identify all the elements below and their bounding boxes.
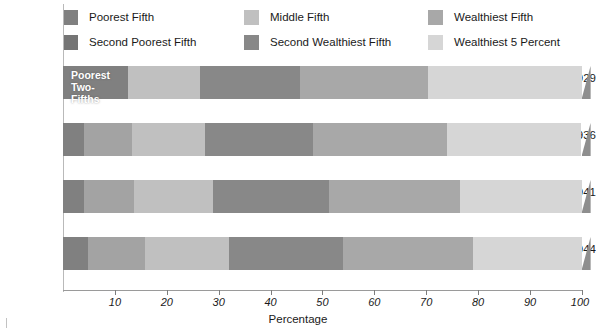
x-tick-label-80: 80 <box>472 296 484 308</box>
segment-poorest-fifth-1944 <box>63 237 88 270</box>
bar-face-1941 <box>63 180 582 213</box>
legend-row-bottom: Second Poorest Fifth Second Wealthiest F… <box>63 31 596 53</box>
x-tick-30 <box>219 290 220 295</box>
segment-middle-fifth-1929 <box>128 66 201 99</box>
bar-face-1944 <box>63 237 582 270</box>
legend-swatch-wealthiest-fifth <box>428 10 443 25</box>
legend-swatch-middle-fifth <box>244 10 259 25</box>
x-tick-label-40: 40 <box>264 296 276 308</box>
x-tick-20 <box>167 290 168 295</box>
segment-middle-fifth-1944 <box>145 237 229 270</box>
segment-wealthiest-fifth-1929 <box>300 66 428 99</box>
legend-swatch-poorest-fifth <box>63 10 78 25</box>
x-tick-100 <box>582 290 583 295</box>
legend-item-poorest-fifth: Poorest Fifth <box>63 6 154 28</box>
legend-label-wealthiest-fifth: Wealthiest Fifth <box>454 11 533 23</box>
legend-label-middle-fifth: Middle Fifth <box>270 11 329 23</box>
x-axis-title: Percentage <box>0 313 596 325</box>
segment-second-wealthiest-fifth-1929 <box>200 66 300 99</box>
x-tick-90 <box>530 290 531 295</box>
legend-label-poorest-fifth: Poorest Fifth <box>89 11 154 23</box>
x-tick-label-20: 20 <box>161 296 173 308</box>
segment-second-poorest-fifth-1944 <box>88 237 145 270</box>
legend-swatch-wealthiest-5-percent <box>428 35 443 50</box>
segment-wealthiest-5-percent-1935-1936 <box>447 123 582 156</box>
x-tick-label-100: 100 <box>571 296 589 308</box>
segment-middle-fifth-1941 <box>134 180 213 213</box>
x-tick-70 <box>426 290 427 295</box>
x-tick-label-60: 60 <box>368 296 380 308</box>
chart-legend: Poorest Fifth Middle Fifth Wealthiest Fi… <box>63 4 596 56</box>
x-tick-label-30: 30 <box>213 296 225 308</box>
x-tick-80 <box>478 290 479 295</box>
legend-item-wealthiest-5-percent: Wealthiest 5 Percent <box>428 31 560 53</box>
legend-item-second-wealthiest-fifth: Second Wealthiest Fifth <box>244 31 391 53</box>
segment-wealthiest-5-percent-1944 <box>473 237 582 270</box>
segment-wealthiest-5-percent-1941 <box>460 180 582 213</box>
segment-poorest-fifth-1935-1936 <box>63 123 84 156</box>
segment-second-wealthiest-fifth-1941 <box>213 180 329 213</box>
segment-wealthiest-fifth-1944 <box>343 237 473 270</box>
x-tick-50 <box>322 290 323 295</box>
plot-area: 1929 1935–1936 1941 1944 Poorest Two-Fif… <box>0 62 596 290</box>
segment-second-wealthiest-fifth-1935-1936 <box>205 123 313 156</box>
x-tick-10 <box>115 290 116 295</box>
segment-second-wealthiest-fifth-1944 <box>229 237 343 270</box>
legend-item-second-poorest-fifth: Second Poorest Fifth <box>63 31 196 53</box>
legend-label-second-wealthiest-fifth: Second Wealthiest Fifth <box>270 36 391 48</box>
x-tick-label-10: 10 <box>109 296 121 308</box>
segment-poorest-fifth-1929 <box>63 66 128 99</box>
bar-face-1935-1936 <box>63 123 581 156</box>
segment-second-poorest-fifth-1935-1936 <box>84 123 132 156</box>
legend-label-wealthiest-5-percent: Wealthiest 5 Percent <box>454 36 560 48</box>
segment-wealthiest-5-percent-1929 <box>428 66 582 99</box>
x-tick-label-50: 50 <box>316 296 328 308</box>
legend-swatch-second-poorest-fifth <box>63 35 78 50</box>
x-axis: 10 20 30 40 50 60 70 80 90 100 Percentag… <box>0 290 596 330</box>
legend-row-top: Poorest Fifth Middle Fifth Wealthiest Fi… <box>63 6 596 28</box>
x-tick-40 <box>271 290 272 295</box>
segment-wealthiest-fifth-1941 <box>329 180 460 213</box>
legend-item-wealthiest-fifth: Wealthiest Fifth <box>428 6 533 28</box>
segment-second-poorest-fifth-1941 <box>84 180 133 213</box>
bar-face-1929 <box>63 66 582 99</box>
legend-item-middle-fifth: Middle Fifth <box>244 6 329 28</box>
x-tick-label-90: 90 <box>524 296 536 308</box>
segment-middle-fifth-1935-1936 <box>132 123 205 156</box>
x-tick-label-70: 70 <box>420 296 432 308</box>
income-distribution-chart: Poorest Fifth Middle Fifth Wealthiest Fi… <box>0 0 596 330</box>
x-tick-60 <box>374 290 375 295</box>
segment-wealthiest-fifth-1935-1936 <box>313 123 446 156</box>
legend-swatch-second-wealthiest-fifth <box>244 35 259 50</box>
corner-mark <box>6 318 7 328</box>
legend-label-second-poorest-fifth: Second Poorest Fifth <box>89 36 196 48</box>
segment-poorest-fifth-1941 <box>63 180 84 213</box>
